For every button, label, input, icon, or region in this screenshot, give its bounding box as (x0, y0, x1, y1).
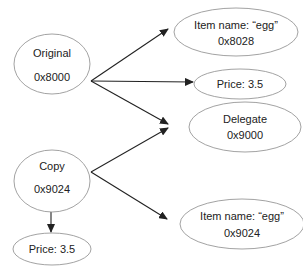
node-label: Price: 3.5 (217, 78, 263, 90)
node-label: 0x9024 (224, 227, 260, 239)
edge-copy-to-delegate (91, 128, 168, 172)
node-label: 0x8028 (218, 35, 254, 47)
nodes: Original0x8000Item name: “egg”0x8028Pric… (13, 8, 303, 265)
node-original: Original0x8000 (14, 34, 90, 94)
node-label: 0x9000 (227, 129, 263, 141)
node-label: Copy (39, 160, 65, 172)
edge-original-to-item_egg_8028 (91, 29, 168, 81)
node-label: Original (33, 47, 71, 59)
node-delegate: Delegate0x9000 (189, 102, 301, 152)
node-label: Delegate (223, 113, 267, 125)
node-label: 0x8000 (34, 71, 70, 83)
node-ellipse (174, 8, 298, 56)
edge-original-to-delegate (91, 81, 168, 124)
node-item-egg-8028: Item name: “egg”0x8028 (174, 8, 298, 56)
node-ellipse (14, 34, 90, 94)
node-item-egg-9024: Item name: “egg”0x9024 (180, 199, 303, 249)
node-price-top: Price: 3.5 (194, 69, 286, 99)
node-copy: Copy0x9024 (14, 150, 90, 212)
object-graph-diagram: Original0x8000Item name: “egg”0x8028Pric… (0, 0, 303, 276)
edge-original-to-price_top (91, 81, 193, 82)
node-label: Price: 3.5 (29, 243, 75, 255)
node-label: 0x9024 (34, 183, 70, 195)
edge-copy-to-item_egg_9024 (91, 172, 167, 219)
node-label: Item name: “egg” (194, 19, 278, 31)
node-ellipse (180, 199, 303, 249)
node-ellipse (189, 102, 301, 152)
node-label: Item name: “egg” (200, 210, 284, 222)
node-price-bottom: Price: 3.5 (13, 233, 91, 265)
